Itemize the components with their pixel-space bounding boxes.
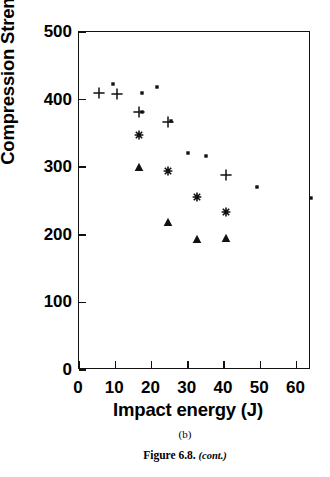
x-tick <box>296 361 298 368</box>
y-axis-title: Compression Strength (MPa) <box>0 0 19 200</box>
data-point-dot <box>309 195 314 200</box>
data-point-star <box>220 207 231 218</box>
x-tick <box>223 361 225 368</box>
y-tick <box>79 234 86 236</box>
data-point-triangle <box>133 162 144 172</box>
figure-panel: 0100200300400500 0102030405060 Compressi… <box>0 0 330 477</box>
x-tick-label: 30 <box>177 379 196 396</box>
data-point-star <box>191 191 202 202</box>
x-tick <box>115 361 117 368</box>
data-point-plus <box>132 105 145 118</box>
x-tick <box>187 361 189 368</box>
x-tick-label: 60 <box>286 379 305 396</box>
x-tick-label: 0 <box>73 379 82 396</box>
figure-caption: Figure 6.8. (cont.) <box>0 449 330 461</box>
data-point-dot <box>254 184 259 189</box>
y-tick-label: 0 <box>0 361 72 378</box>
x-tick-label: 40 <box>214 379 233 396</box>
x-tick <box>151 361 153 368</box>
data-point-dot <box>154 84 159 89</box>
x-tick-label: 10 <box>105 379 124 396</box>
data-point-plus <box>161 115 174 128</box>
data-point-triangle <box>191 234 202 244</box>
data-point-plus <box>219 169 232 182</box>
plot-area <box>78 31 310 369</box>
data-point-plus <box>111 88 124 101</box>
y-tick <box>79 302 86 304</box>
data-point-dot <box>140 109 145 114</box>
y-tick <box>79 166 86 168</box>
data-point-dot <box>185 151 190 156</box>
y-tick <box>79 31 86 33</box>
y-tick <box>79 99 86 101</box>
data-point-dot <box>203 154 208 159</box>
data-point-dot <box>111 82 116 87</box>
data-point-plus <box>92 86 105 99</box>
figure-caption-continued: (cont.) <box>199 450 227 461</box>
y-tick <box>79 369 86 371</box>
x-tick <box>78 361 80 368</box>
y-tick-label: 200 <box>0 225 72 242</box>
x-tick-label: 20 <box>141 379 160 396</box>
x-tick <box>260 361 262 368</box>
x-tick-label: 50 <box>250 379 269 396</box>
data-point-star <box>162 166 173 177</box>
data-point-triangle <box>162 217 173 227</box>
data-point-star <box>133 129 144 140</box>
data-point-triangle <box>220 233 231 243</box>
data-point-dot <box>140 90 145 95</box>
y-tick-label: 100 <box>0 293 72 310</box>
figure-caption-number: Figure 6.8. <box>143 449 196 461</box>
panel-label: (b) <box>0 428 330 440</box>
data-point-dot <box>169 119 174 124</box>
x-axis-title: Impact energy (J) <box>0 399 330 421</box>
